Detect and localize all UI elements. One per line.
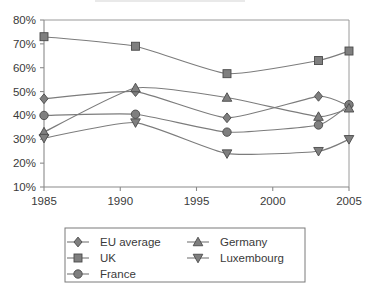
data-point-marker-square: [40, 33, 48, 41]
data-point-marker-square: [132, 42, 140, 50]
y-tick-label: 50%: [13, 86, 36, 98]
chart-canvas: 10%20%30%40%50%60%70%80% 198519901995200…: [0, 0, 367, 286]
legend-item-label: EU average: [100, 236, 161, 248]
series-layer: [39, 33, 354, 159]
y-tick-label: 40%: [13, 109, 36, 121]
legend-item-label: Germany: [220, 236, 268, 248]
data-point-marker-diamond: [314, 91, 322, 101]
data-point-marker-circle: [223, 128, 231, 136]
y-tick-label: 80%: [13, 14, 36, 26]
legend-item-label: UK: [100, 252, 116, 264]
data-point-marker-circle: [131, 110, 139, 118]
frame-top-right: [44, 20, 349, 187]
scan-artifact: [95, 0, 245, 2]
y-tick-label: 70%: [13, 38, 36, 50]
legend-item-label: Luxembourg: [220, 252, 284, 264]
line-chart: 10%20%30%40%50%60%70%80% 198519901995200…: [0, 0, 367, 286]
x-tick-label: 1990: [107, 195, 133, 207]
data-point-marker-triangle-down: [39, 134, 49, 143]
legend-item-france[interactable]: France: [67, 268, 136, 280]
series-uk: [40, 33, 353, 78]
series-france: [40, 100, 353, 136]
y-tick-label: 30%: [13, 133, 36, 145]
x-tick-label: 2005: [336, 195, 362, 207]
x-tick-label: 1995: [184, 195, 210, 207]
data-point-marker-square: [223, 70, 231, 78]
x-tick-label: 1985: [31, 195, 57, 207]
data-point-marker-diamond: [40, 94, 48, 104]
y-tick-label: 10%: [13, 181, 36, 193]
x-tick-label: 2000: [260, 195, 286, 207]
series-luxembourg: [39, 119, 354, 159]
data-point-marker-circle: [40, 111, 48, 119]
legend-item-label: France: [100, 268, 136, 280]
y-tick-label: 60%: [13, 62, 36, 74]
series-line: [44, 37, 349, 74]
data-point-marker-circle: [314, 121, 322, 129]
data-point-marker-diamond: [223, 113, 231, 123]
data-point-marker-square: [74, 254, 82, 262]
chart-legend: EU averageUKFranceGermanyLuxembourg: [65, 228, 305, 282]
x-axis-ticks: 19851990199520002005: [31, 187, 362, 207]
plot-frame: [44, 20, 349, 187]
data-point-marker-square: [345, 47, 353, 55]
y-tick-label: 20%: [13, 157, 36, 169]
data-point-marker-circle: [74, 270, 82, 278]
data-point-marker-square: [315, 57, 323, 65]
data-point-marker-triangle-down: [344, 136, 354, 145]
y-axis-ticks: 10%20%30%40%50%60%70%80%: [13, 14, 44, 193]
series-eu-average: [40, 87, 353, 123]
